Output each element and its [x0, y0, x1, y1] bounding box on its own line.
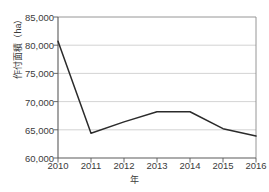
x-tick-label: 2010 [43, 161, 73, 171]
x-tick-label: 2012 [109, 161, 139, 171]
y-axis-ticks [54, 17, 59, 158]
x-axis-tick-labels: 2010 2011 2012 2013 2014 2015 2016 [0, 161, 269, 175]
plot-background [58, 17, 256, 158]
line-chart: 作付面積（ha） 85,000 80,000 75,000 70,000 65,… [0, 0, 269, 192]
x-tick-label: 2011 [76, 161, 106, 171]
x-tick-label: 2016 [241, 161, 269, 171]
x-tick-label: 2013 [142, 161, 172, 171]
x-axis-title: 年 [0, 176, 269, 185]
x-tick-label: 2014 [175, 161, 205, 171]
x-tick-label: 2015 [208, 161, 238, 171]
